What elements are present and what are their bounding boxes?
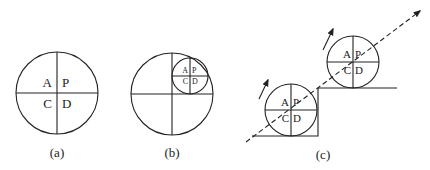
lower-label-c: C xyxy=(282,112,289,124)
caption-a: (a) xyxy=(50,145,64,160)
pdca-diagram: A P C D (a) A P C D (b) A P C D A P xyxy=(0,0,430,170)
inner-label-a: A xyxy=(182,66,188,75)
panel-c: A P C D A P C D (c) xyxy=(246,11,420,162)
upper-label-a: A xyxy=(343,48,351,60)
inner-label-d: D xyxy=(192,77,198,86)
panel-a: A P C D (a) xyxy=(16,52,98,160)
inner-label-p: P xyxy=(192,66,197,75)
caption-c: (c) xyxy=(316,147,330,162)
upper-label-c: C xyxy=(344,64,351,76)
lower-label-a: A xyxy=(281,96,289,108)
label-p: P xyxy=(62,75,69,90)
lower-label-d: D xyxy=(293,112,301,124)
label-c: C xyxy=(43,96,52,111)
dashed-arrow-line xyxy=(246,11,420,142)
inner-label-c: C xyxy=(183,77,188,86)
label-d: D xyxy=(62,96,71,111)
rotation-arrow-icon xyxy=(259,80,268,99)
caption-b: (b) xyxy=(164,145,179,160)
label-a: A xyxy=(43,75,53,90)
upper-label-d: D xyxy=(355,64,363,76)
panel-b: A P C D (b) xyxy=(131,53,213,160)
